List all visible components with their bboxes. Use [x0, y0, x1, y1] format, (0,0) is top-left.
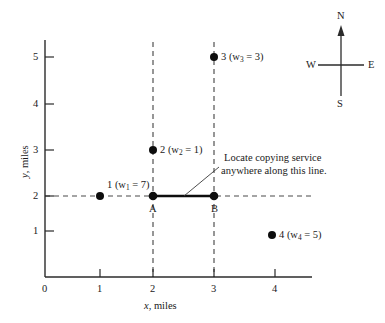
scatter-plot-canvas: [0, 0, 385, 323]
label-1-sub: 1: [126, 183, 130, 192]
y-tick-label-5: 5: [33, 52, 38, 63]
node-label-a: A: [149, 204, 157, 215]
label-4-suffix: = 5): [302, 229, 322, 240]
x-tick-label-1: 1: [97, 284, 102, 295]
data-point-label-3: 3 (w3 = 3): [221, 52, 264, 63]
data-point-3: [210, 53, 218, 61]
compass-label-west: W: [306, 60, 316, 71]
y-axis-title-unit: , miles: [19, 145, 30, 173]
x-axis-title-unit: , miles: [149, 300, 177, 311]
compass-label-south: S: [337, 99, 343, 110]
data-point-label-1: 1 (w1 = 7): [107, 180, 150, 191]
y-axis-title: y, miles: [20, 145, 31, 178]
annotation-text-line-2: anywhere along this line.: [221, 165, 327, 178]
data-point-4: [268, 231, 276, 239]
label-2-sub: 2: [179, 148, 183, 157]
data-point-label-4: 4 (w4 = 5): [279, 230, 322, 241]
label-4-prefix: 4 (w: [279, 229, 298, 240]
label-2-suffix: = 1): [183, 144, 203, 155]
label-3-prefix: 3 (w: [221, 51, 240, 62]
label-1-prefix: 1 (w: [107, 179, 126, 190]
x-tick-label-0: 0: [42, 284, 47, 295]
y-tick-label-2: 2: [33, 191, 38, 202]
label-1-suffix: = 7): [130, 179, 150, 190]
x-axis-title: x, miles: [144, 301, 177, 312]
node-point-a: [149, 192, 158, 201]
label-3-suffix: = 3): [244, 51, 264, 62]
label-2-prefix: 2 (w: [160, 144, 179, 155]
compass-rose: [318, 25, 364, 96]
node-label-b: B: [211, 204, 218, 215]
x-tick-label-4: 4: [272, 284, 277, 295]
compass-north-arrow-icon: [338, 25, 345, 36]
y-tick-label-4: 4: [33, 99, 38, 110]
label-3-sub: 3: [240, 55, 244, 64]
node-point-b: [210, 192, 219, 201]
y-tick-label-3: 3: [33, 145, 38, 156]
figure-container: 1 2 3 4 5 0 1 2 3 4 x, miles y, miles 1 …: [0, 0, 385, 323]
data-point-1: [96, 192, 104, 200]
y-tick-label-1: 1: [33, 226, 38, 237]
compass-label-east: E: [368, 60, 374, 71]
x-tick-label-3: 3: [211, 284, 216, 295]
label-4-sub: 4: [298, 233, 302, 242]
annotation-text-line-1: Locate copying service: [224, 152, 321, 165]
data-point-2: [149, 146, 157, 154]
compass-label-north: N: [337, 11, 345, 22]
x-tick-label-2: 2: [150, 284, 155, 295]
data-point-label-2: 2 (w2 = 1): [160, 145, 203, 156]
y-axis-title-var: y: [19, 173, 30, 178]
